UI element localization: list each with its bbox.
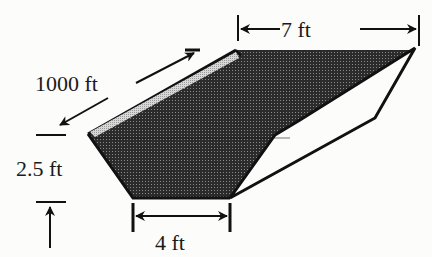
bottom-width-label: 4 ft	[155, 230, 185, 255]
top-width-label: 7 ft	[281, 17, 311, 42]
channel-diagram: 1000 ft 7 ft 2.5 ft 4 ft	[0, 0, 432, 257]
bottom-width-dimension: 4 ft	[133, 203, 230, 255]
top-width-dimension: 7 ft	[238, 15, 419, 46]
diagram-svg: 1000 ft 7 ft 2.5 ft 4 ft	[0, 0, 432, 257]
depth-dimension: 2.5 ft	[16, 135, 66, 248]
depth-label: 2.5 ft	[16, 156, 62, 181]
length-label: 1000 ft	[35, 71, 98, 96]
